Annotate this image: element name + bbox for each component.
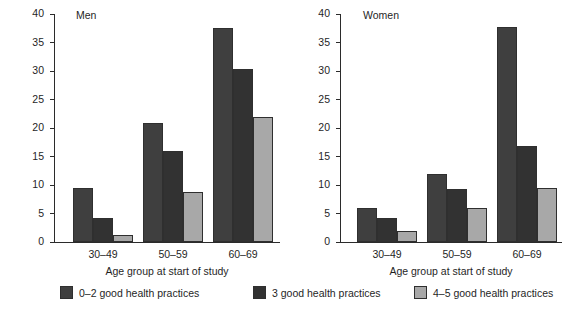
y-tick-label: 10	[304, 179, 330, 190]
x-tick-label: 60–69	[485, 248, 569, 260]
x-axis-line-women	[340, 242, 562, 243]
x-axis-label-women: Age group at start of study	[340, 265, 562, 277]
bar[interactable]	[397, 231, 417, 242]
plot-area-women	[341, 14, 562, 242]
bar[interactable]	[163, 151, 183, 242]
y-tick-label: 25	[18, 94, 44, 105]
bar[interactable]	[213, 28, 233, 242]
bar[interactable]	[183, 192, 203, 242]
panel-women: Women 0510152025303540 Age group at star…	[290, 0, 574, 284]
bar[interactable]	[73, 188, 93, 242]
y-tick-label: 5	[18, 208, 44, 219]
bar[interactable]	[447, 189, 467, 242]
bar-group	[213, 14, 273, 242]
bar[interactable]	[113, 235, 133, 242]
y-tick-label: 35	[18, 37, 44, 48]
y-tick-label: 40	[304, 8, 330, 19]
bar[interactable]	[427, 174, 447, 242]
bar[interactable]	[377, 218, 397, 242]
legend-label: 0–2 good health practices	[79, 287, 199, 299]
panel-men: Percentage who died from all causes Men …	[0, 0, 290, 284]
y-tick-label: 15	[304, 151, 330, 162]
bar[interactable]	[93, 218, 113, 243]
plot-area-men	[55, 14, 280, 242]
bar[interactable]	[497, 27, 517, 242]
y-tick-label: 35	[304, 37, 330, 48]
bar[interactable]	[537, 188, 557, 242]
bar-group	[143, 14, 203, 242]
legend-item[interactable]: 4–5 good health practices	[414, 286, 553, 299]
y-tick-label: 30	[304, 65, 330, 76]
grouped-bar-chart-figure: Percentage who died from all causes Men …	[0, 0, 574, 312]
bar-group	[497, 14, 557, 242]
y-tick-label: 10	[18, 179, 44, 190]
bar[interactable]	[517, 146, 537, 242]
x-tick-label: 60–69	[201, 248, 285, 260]
chart-panels: Percentage who died from all causes Men …	[0, 0, 574, 284]
legend-item[interactable]: 0–2 good health practices	[60, 286, 199, 299]
y-tick-label: 25	[304, 94, 330, 105]
bar[interactable]	[253, 117, 273, 242]
chart-legend: 0–2 good health practices3 good health p…	[0, 286, 574, 310]
legend-swatch-icon	[60, 286, 73, 299]
y-tick-label: 40	[18, 8, 44, 19]
y-tick-label: 15	[18, 151, 44, 162]
bar-group	[73, 14, 133, 242]
x-axis-line-men	[54, 242, 280, 243]
y-tick-label: 30	[18, 65, 44, 76]
bar[interactable]	[467, 208, 487, 242]
legend-item[interactable]: 3 good health practices	[253, 286, 381, 299]
y-tick-label: 0	[304, 236, 330, 247]
bar[interactable]	[143, 123, 163, 242]
y-tick-label: 20	[304, 122, 330, 133]
y-tick-label: 20	[18, 122, 44, 133]
bar[interactable]	[233, 69, 253, 242]
legend-label: 4–5 good health practices	[433, 287, 553, 299]
x-axis-label-men: Age group at start of study	[54, 265, 280, 277]
bar-group	[427, 14, 487, 242]
legend-swatch-icon	[253, 286, 266, 299]
legend-swatch-icon	[414, 286, 427, 299]
bar-group	[357, 14, 417, 242]
bar[interactable]	[357, 208, 377, 242]
y-tick-label: 0	[18, 236, 44, 247]
y-tick-label: 5	[304, 208, 330, 219]
legend-label: 3 good health practices	[272, 287, 381, 299]
